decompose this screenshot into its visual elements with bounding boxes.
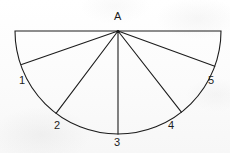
radius-line-a-5 <box>118 31 215 66</box>
vertex-label-5: 5 <box>208 75 214 86</box>
semicircle-fan-diagram: A 1 2 3 4 5 <box>0 0 230 153</box>
radius-line-a-4 <box>118 31 181 112</box>
apex-vertex-dot <box>117 30 120 33</box>
vertex-label-1: 1 <box>19 75 25 86</box>
vertex-label-4: 4 <box>168 120 174 131</box>
radius-line-a-1 <box>22 31 118 65</box>
diagram-canvas <box>0 0 230 153</box>
radius-line-a-2 <box>56 31 118 113</box>
vertex-label-2: 2 <box>54 120 60 131</box>
vertex-label-a: A <box>114 11 121 22</box>
vertex-label-3: 3 <box>114 137 120 148</box>
